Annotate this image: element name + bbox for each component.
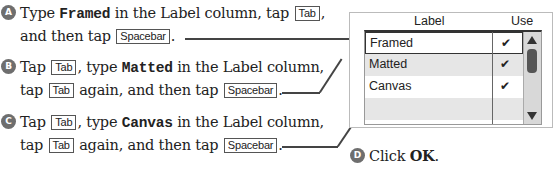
spacebar-key: Spacebar <box>116 29 170 44</box>
step-c-line2: tap Tab again, and then tap Spacebar. <box>20 134 324 156</box>
code-canvas: Canvas <box>122 115 173 131</box>
step-b-line2: tap Tab again, and then tap Spacebar. <box>20 79 324 101</box>
step-b: B Tap Tab, type Matted in the Label colu… <box>20 56 324 101</box>
scroll-thumb[interactable] <box>527 49 537 73</box>
row-label[interactable]: Framed <box>370 36 413 50</box>
label-list: Framed ✔ Matted ✔ Canvas ✔ <box>364 30 542 125</box>
column-divider <box>492 32 493 124</box>
list-row-canvas[interactable]: Canvas ✔ <box>365 76 523 98</box>
list-row-matted[interactable]: Matted ✔ <box>365 54 523 76</box>
tab-key: Tab <box>49 138 74 153</box>
step-d: D Click OK. <box>369 145 439 167</box>
step-badge-a: A <box>1 5 16 20</box>
checkmark-icon[interactable]: ✔ <box>501 36 511 50</box>
row-label[interactable]: Matted <box>369 57 407 71</box>
callout-line-b-horizontal <box>282 92 320 94</box>
ok-label: OK <box>410 147 435 164</box>
tab-key: Tab <box>295 6 320 21</box>
step-a-line1: Type Framed in the Label column, tap Tab… <box>20 2 325 25</box>
step-badge-d: D <box>350 148 365 163</box>
column-header-label: Label <box>414 14 445 28</box>
code-framed: Framed <box>59 6 110 22</box>
spacebar-key: Spacebar <box>224 138 278 153</box>
callout-line-c-horizontal <box>282 146 338 148</box>
list-row-empty[interactable] <box>365 98 523 120</box>
step-a-line2: and then tap Spacebar. <box>20 25 325 47</box>
tab-key: Tab <box>51 115 76 130</box>
label-dialog: Label Use Framed ✔ Matted ✔ Canvas ✔ <box>349 12 553 128</box>
step-a: A Type Framed in the Label column, tap T… <box>20 2 325 47</box>
spacebar-key: Spacebar <box>224 83 278 98</box>
vertical-scrollbar[interactable] <box>523 32 541 124</box>
step-badge-b: B <box>1 59 16 74</box>
checkmark-icon[interactable]: ✔ <box>500 79 510 93</box>
step-b-line1: Tap Tab, type Matted in the Label column… <box>20 56 324 79</box>
tab-key: Tab <box>51 60 76 75</box>
step-c-line1: Tap Tab, type Canvas in the Label column… <box>20 111 324 134</box>
checkmark-icon[interactable]: ✔ <box>500 57 510 71</box>
column-header-use: Use <box>511 14 533 28</box>
tab-key: Tab <box>49 83 74 98</box>
list-row-framed[interactable]: Framed ✔ <box>365 32 523 54</box>
step-badge-c: C <box>1 114 16 129</box>
scroll-up-arrow-icon[interactable] <box>527 36 537 44</box>
row-label[interactable]: Canvas <box>369 79 411 93</box>
step-c: C Tap Tab, type Canvas in the Label colu… <box>20 111 324 156</box>
code-matted: Matted <box>122 60 173 76</box>
callout-line-a <box>185 38 363 40</box>
scroll-down-arrow-icon[interactable] <box>527 112 537 120</box>
